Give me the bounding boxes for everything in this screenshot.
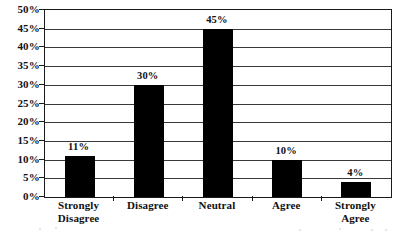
y-axis-tick-mark [39, 84, 44, 85]
bar-value-label: 30% [113, 70, 182, 81]
x-axis-tick-mark [321, 196, 322, 201]
y-axis-tick-label: 45% [2, 22, 40, 33]
y-axis-tick-mark [39, 121, 44, 122]
y-axis-tick-label: 30% [2, 78, 40, 89]
y-axis-tick-mark [39, 177, 44, 178]
y-axis-tick-mark [39, 196, 44, 197]
bar [272, 160, 302, 197]
y-axis-tick-mark [39, 140, 44, 141]
bar [134, 85, 164, 197]
bar [341, 182, 371, 197]
y-axis-tick-label: 0% [2, 191, 40, 202]
y-axis: 0%5%10%15%20%25%30%35%40%45%50% [0, 0, 40, 232]
bar [203, 29, 233, 197]
bar-value-label: 4% [321, 167, 390, 178]
bar-value-label: 45% [182, 14, 251, 25]
y-axis-tick-mark [39, 9, 44, 10]
y-axis-tick-label: 20% [2, 116, 40, 127]
x-axis-category-label: Disagree [113, 199, 182, 212]
x-axis-category-label: Agree [252, 199, 321, 212]
y-axis-tick-label: 10% [2, 153, 40, 164]
y-axis-tick-label: 15% [2, 134, 40, 145]
x-axis-category-label: Strongly Agree [321, 199, 390, 225]
y-axis-tick-mark [39, 65, 44, 66]
x-axis-category-label: Strongly Disagree [44, 199, 113, 225]
scan-noise [0, 226, 405, 232]
y-axis-tick-mark [39, 46, 44, 47]
y-axis-tick-mark [39, 159, 44, 160]
y-axis-tick-label: 35% [2, 60, 40, 71]
x-axis-tick-mark [182, 196, 183, 201]
y-axis-tick-mark [39, 28, 44, 29]
y-axis-tick-label: 5% [2, 172, 40, 183]
bar-value-label: 11% [44, 141, 113, 152]
y-axis-tick-label: 40% [2, 41, 40, 52]
y-axis-tick-mark [39, 103, 44, 104]
bar [65, 156, 95, 197]
x-axis-category-label: Neutral [182, 199, 251, 212]
bar-value-label: 10% [252, 145, 321, 156]
y-axis-tick-label: 25% [2, 97, 40, 108]
y-axis-tick-label: 50% [2, 4, 40, 15]
x-axis-tick-mark [252, 196, 253, 201]
x-axis-tick-mark [113, 196, 114, 201]
bar-chart: 0%5%10%15%20%25%30%35%40%45%50% 11%Stron… [0, 0, 405, 232]
